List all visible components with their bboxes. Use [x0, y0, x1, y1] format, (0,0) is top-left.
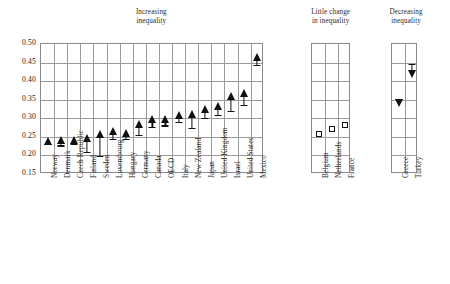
x-axis-category-label: France — [347, 158, 356, 178]
arrow-up-icon — [175, 111, 183, 119]
plot-area-increasing — [40, 43, 263, 173]
x-axis-category-label: Czech Republic — [76, 130, 85, 178]
arrow-up-icon — [253, 53, 261, 61]
x-axis-category-label: United Kingdom — [220, 127, 229, 178]
arrow-up-icon — [44, 137, 52, 145]
arrow-down-icon — [395, 99, 403, 107]
x-axis-category-label: United States — [246, 138, 255, 178]
x-axis-category-label: Greece — [401, 157, 410, 178]
x-axis-category-label: Japan — [207, 161, 216, 178]
panel-title-line1: Little change — [303, 8, 358, 17]
x-axis-category-label: OECD — [167, 158, 176, 178]
x-axis-category-label: Netherlands — [334, 142, 343, 178]
data-marker — [172, 44, 185, 174]
y-axis-tick-label: 0.50 — [2, 38, 36, 47]
x-axis-category-label: Denmark — [63, 150, 72, 178]
arrow-tail-cap — [149, 127, 156, 128]
x-axis-category-label: Mexico — [259, 155, 268, 178]
x-axis-category-label: New Zealand — [194, 138, 203, 178]
x-axis-category-label: Norway — [50, 154, 59, 178]
arrow-up-icon — [201, 105, 209, 113]
x-axis-category-label: Luxembourg — [115, 139, 124, 178]
chart-root: Increasing inequality Little change in i… — [0, 0, 450, 284]
x-axis-category-label: Hungary — [128, 152, 137, 178]
panel-title-line2: inequality — [381, 17, 431, 26]
square-marker-icon — [342, 122, 348, 128]
arrow-tail-cap — [201, 118, 208, 119]
x-axis-category-label: Sweden — [102, 154, 111, 178]
x-axis-category-label: Turkey — [414, 157, 423, 178]
arrow-tail-cap — [241, 105, 248, 106]
y-axis-tick-label: 0.40 — [2, 75, 36, 84]
arrow-tail-cap — [254, 65, 261, 66]
data-marker — [405, 44, 418, 174]
panel-title-decreasing: Decreasing inequality — [381, 8, 431, 26]
panel-title-line2: inequality — [91, 17, 211, 26]
arrow-up-icon — [148, 115, 156, 123]
data-marker — [392, 44, 405, 174]
arrow-up-icon — [96, 130, 104, 138]
arrow-up-icon — [214, 102, 222, 110]
arrow-up-icon — [57, 136, 65, 144]
arrow-tail-cap — [57, 145, 64, 146]
plot-area-decreasing — [391, 43, 417, 173]
arrow-up-icon — [135, 120, 143, 128]
y-axis-tick-label: 0.25 — [2, 131, 36, 140]
x-axis-category-label: Israel — [233, 161, 242, 178]
arrow-stem — [99, 135, 100, 156]
x-axis-category-label: Germany — [141, 150, 150, 178]
arrow-tail-cap — [214, 115, 221, 116]
arrow-tail-cap — [188, 128, 195, 129]
panel-title-increasing: Increasing inequality — [91, 8, 211, 26]
arrow-up-icon — [161, 115, 169, 123]
panel-title-line2: in inequality — [303, 17, 358, 26]
square-marker-icon — [329, 126, 335, 132]
x-axis-category-label: Finland — [89, 155, 98, 178]
arrow-up-icon — [227, 92, 235, 100]
data-marker — [159, 44, 172, 174]
arrow-tail-cap — [162, 125, 169, 126]
arrow-up-icon — [240, 89, 248, 97]
y-axis-tick-label: 0.30 — [2, 112, 36, 121]
y-axis-tick-label: 0.20 — [2, 149, 36, 158]
x-axis-category-label: Canada — [154, 156, 163, 178]
panel-title-line1: Increasing — [91, 8, 211, 17]
y-axis-tick-label: 0.45 — [2, 57, 36, 66]
arrow-down-icon — [408, 70, 416, 78]
x-axis-category-label: Belgium — [321, 152, 330, 178]
y-axis-tick-label: 0.15 — [2, 168, 36, 177]
arrow-up-icon — [109, 127, 117, 135]
square-marker-icon — [316, 131, 322, 137]
panel-title-line1: Decreasing — [381, 8, 431, 17]
plot-area-little-change — [311, 43, 350, 173]
panel-title-little-change: Little change in inequality — [303, 8, 358, 26]
x-axis-category-label: Italy — [181, 164, 190, 178]
y-axis-tick-label: 0.35 — [2, 94, 36, 103]
arrow-up-icon — [122, 129, 130, 137]
arrow-tail-cap — [227, 111, 234, 112]
arrow-up-icon — [188, 110, 196, 118]
arrow-tail-cap — [175, 122, 182, 123]
arrow-tail-cap — [136, 135, 143, 136]
